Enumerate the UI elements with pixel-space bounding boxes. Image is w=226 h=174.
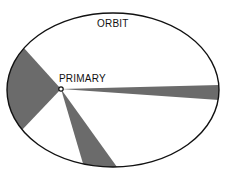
swept-sectors xyxy=(0,22,226,174)
orbit-label: ORBIT xyxy=(97,18,129,29)
primary-body-icon xyxy=(59,87,63,91)
right-sector xyxy=(61,83,226,107)
primary-label: PRIMARY xyxy=(59,73,106,84)
orbit-diagram: ORBIT PRIMARY xyxy=(0,0,226,174)
